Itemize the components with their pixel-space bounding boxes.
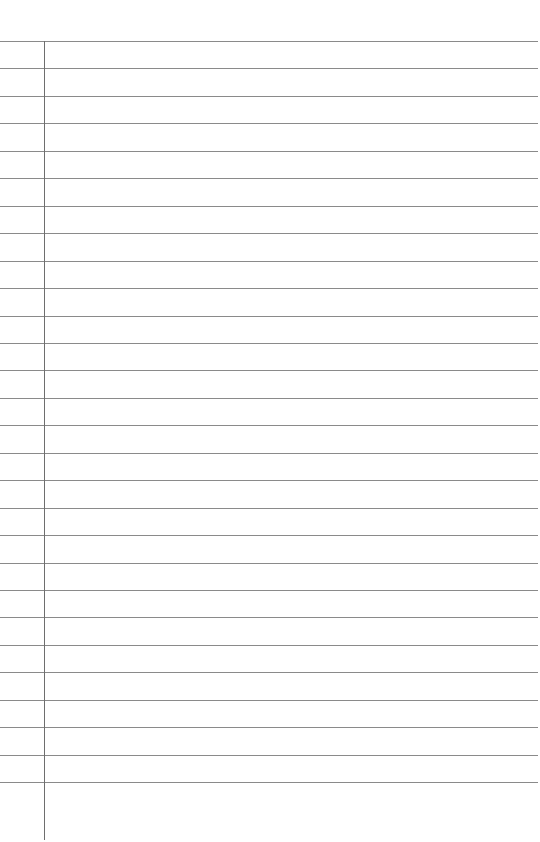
ruled-line bbox=[0, 617, 538, 618]
margin-line bbox=[44, 41, 45, 840]
ruled-line bbox=[0, 700, 538, 701]
ruled-line bbox=[0, 563, 538, 564]
ruled-line bbox=[0, 370, 538, 371]
lined-paper-page bbox=[0, 0, 540, 842]
ruled-line bbox=[0, 343, 538, 344]
ruled-line bbox=[0, 480, 538, 481]
ruled-line bbox=[0, 645, 538, 646]
ruled-line bbox=[0, 178, 538, 179]
ruled-line bbox=[0, 590, 538, 591]
ruled-line bbox=[0, 261, 538, 262]
ruled-line bbox=[0, 535, 538, 536]
ruled-line bbox=[0, 233, 538, 234]
ruled-line bbox=[0, 123, 538, 124]
ruled-line bbox=[0, 398, 538, 399]
ruled-line bbox=[0, 288, 538, 289]
ruled-line bbox=[0, 151, 538, 152]
ruled-line bbox=[0, 68, 538, 69]
ruled-line bbox=[0, 672, 538, 673]
ruled-line bbox=[0, 425, 538, 426]
ruled-line bbox=[0, 206, 538, 207]
ruled-line bbox=[0, 41, 538, 42]
ruled-line bbox=[0, 727, 538, 728]
ruled-line bbox=[0, 782, 538, 783]
ruled-line bbox=[0, 96, 538, 97]
ruled-line bbox=[0, 316, 538, 317]
ruled-line bbox=[0, 453, 538, 454]
ruled-line bbox=[0, 508, 538, 509]
ruled-line bbox=[0, 755, 538, 756]
